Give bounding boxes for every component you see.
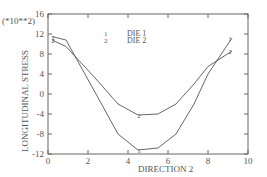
y-tick-label: -12 <box>32 149 44 159</box>
series-marker-2: 2 <box>228 48 232 56</box>
x-tick-label: 4 <box>126 156 131 166</box>
line-chart: -12-8-40481216 0246810 111222 1DIE 12DIE… <box>0 0 267 177</box>
y-tick-label: 8 <box>40 49 45 59</box>
legend-marker: 2 <box>104 37 108 45</box>
plot-frame <box>48 14 248 154</box>
data-series: 111222 <box>51 34 232 156</box>
y-multiplier-label: (*10**2) <box>2 16 35 26</box>
series-line-1 <box>52 37 232 151</box>
series-marker-2: 2 <box>137 112 141 120</box>
x-axis-ticks: 0246810 <box>46 14 253 166</box>
x-tick-label: 8 <box>206 156 211 166</box>
series-marker-1: 1 <box>228 35 232 43</box>
y-tick-label: 0 <box>40 89 45 99</box>
y-tick-label: 16 <box>35 9 45 19</box>
y-tick-label: 4 <box>40 69 45 79</box>
y-tick-label: -8 <box>37 129 45 139</box>
x-tick-label: 10 <box>244 156 254 166</box>
legend-label: DIE 2 <box>127 36 146 45</box>
x-tick-label: 2 <box>86 156 91 166</box>
y-tick-label: 12 <box>35 29 44 39</box>
x-tick-label: 0 <box>46 156 51 166</box>
y-axis-label: LONGITUDINAL STRESS <box>20 50 30 152</box>
series-marker-2: 2 <box>51 37 55 45</box>
legend: 1DIE 12DIE 2 <box>104 29 146 45</box>
series-line-2 <box>52 40 232 115</box>
series-marker-1: 1 <box>137 147 141 155</box>
y-tick-label: -4 <box>37 109 45 119</box>
plot-border <box>48 14 248 154</box>
chart-svg: -12-8-40481216 0246810 111222 1DIE 12DIE… <box>0 0 267 177</box>
x-axis-label: DIRECTION 2 <box>138 164 193 174</box>
